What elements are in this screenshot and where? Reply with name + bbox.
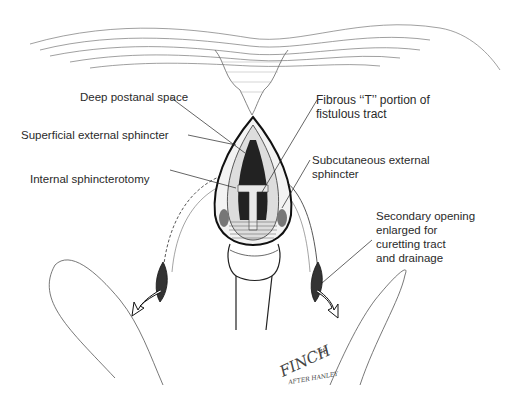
label-secondary-line4: and drainage — [376, 252, 443, 265]
secondary-opening-right — [311, 262, 322, 302]
buttock-left — [49, 260, 163, 385]
label-fibrous-t-line1: Fibrous ‘‘T’’ portion of — [316, 94, 430, 107]
back-contour-lines — [30, 25, 500, 70]
label-secondary-line3: curetting tract — [376, 238, 446, 251]
subcutaneous-sphincter-left — [219, 209, 229, 227]
anal-canal — [228, 244, 280, 330]
surgical-illustration: Deep postanal space Fibrous ‘‘T’’ portio… — [0, 0, 509, 396]
label-secondary-line2: enlarged for — [376, 224, 437, 237]
anatomy-drawing — [0, 0, 509, 396]
label-fibrous-t-line2: fistulous tract — [316, 108, 387, 121]
subcutaneous-sphincter-right — [277, 209, 287, 227]
label-subcutaneous-line2: sphincter — [312, 168, 359, 181]
drainage-arrow-right — [317, 290, 338, 318]
drainage-arrow-left — [132, 290, 161, 316]
buttock-right — [330, 270, 406, 385]
label-deep-postanal-space: Deep postanal space — [80, 91, 188, 104]
secondary-opening-left — [156, 262, 167, 302]
label-subcutaneous-line1: Subcutaneous external — [312, 154, 430, 167]
coccyx-outline — [215, 50, 288, 115]
label-secondary-line1: Secondary opening — [376, 210, 475, 223]
label-internal-sphincterotomy: Internal sphincterotomy — [30, 173, 150, 186]
label-superficial-external-sphincter: Superficial external sphincter — [21, 129, 169, 142]
